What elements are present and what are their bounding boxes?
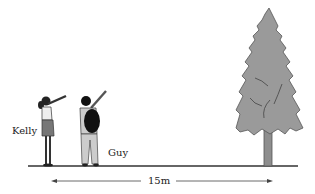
kelly-label: Kelly: [12, 125, 37, 136]
diagram-canvas: [0, 0, 315, 194]
tree: [236, 8, 303, 166]
guy-figure: [80, 91, 106, 166]
guy-label: Guy: [108, 147, 128, 158]
kelly-figure: [38, 96, 66, 167]
distance-label: 15m: [148, 175, 170, 186]
